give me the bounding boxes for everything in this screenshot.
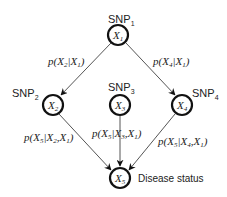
- node-x2: SNP2 X2: [12, 87, 63, 115]
- edge-label-x4-x5: p(X5|X4,X1): [157, 135, 208, 149]
- node-x5: X5 Disease status: [110, 168, 204, 188]
- disease-status-label: Disease status: [138, 173, 204, 184]
- snp2-label: SNP2: [12, 87, 39, 101]
- edge-label-x2-x5: p(X5|X2,X1): [23, 131, 74, 145]
- edge-label-x1-x2: p(X2|X1): [47, 55, 85, 69]
- bayesian-network-diagram: SNP1 X1 SNP2 X2 SNP3 X3 SNP4 X4: [0, 0, 227, 197]
- edge-label-x3-x5: p(X5|X3,X1): [91, 127, 142, 141]
- node-x4: SNP4 X4: [172, 87, 219, 115]
- node-x1: SNP1 X1: [108, 13, 135, 45]
- node-x3: SNP3 X3: [108, 81, 135, 115]
- edge-label-x1-x4: p(X4|X1): [152, 55, 190, 69]
- snp4-label: SNP4: [192, 87, 219, 101]
- edge-x1-x2: [61, 43, 111, 95]
- snp3-label: SNP3: [108, 81, 135, 95]
